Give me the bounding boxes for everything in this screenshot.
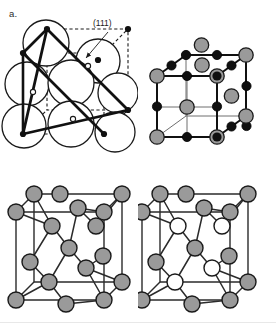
scan-artifact-line bbox=[0, 322, 276, 323]
plane-111-label: (111) bbox=[93, 18, 112, 28]
panel-a-fcc-111: a. bbox=[0, 0, 138, 164]
panel-d-diagram bbox=[138, 164, 276, 327]
cation-atoms bbox=[150, 38, 253, 144]
panel-c-diamond-cubic: c. bbox=[0, 164, 138, 327]
crystal-structure-figure: a. bbox=[0, 0, 276, 327]
panel-b-rock-salt: b. bbox=[138, 0, 276, 164]
panel-d-zinc-blende: d. bbox=[138, 164, 276, 327]
panel-b-diagram bbox=[138, 0, 276, 164]
panel-c-diagram bbox=[0, 164, 138, 327]
panel-a-diagram: (111) bbox=[0, 0, 138, 164]
